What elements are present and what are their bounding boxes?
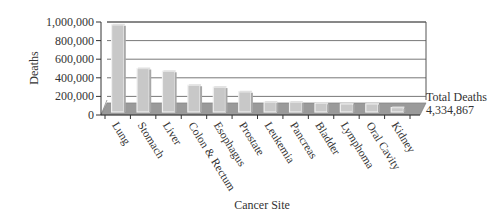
y-tick-label: 600,000 <box>55 52 94 66</box>
bar <box>162 70 176 112</box>
bar <box>366 103 380 112</box>
bar <box>239 91 253 112</box>
y-tick-label: 400,000 <box>55 71 94 85</box>
total-deaths-label: Total Deaths <box>426 90 487 104</box>
bar <box>391 107 405 112</box>
bar-chart: 0200,000400,000600,000800,0001,000,000 L… <box>0 0 504 220</box>
bar <box>290 101 304 112</box>
x-tick-label: Colon & Rectum <box>186 120 238 193</box>
x-axis: LungStomachLiverColon & RectumEsophagusP… <box>101 115 420 193</box>
bar <box>264 101 278 112</box>
x-tick-label: Lung <box>109 120 133 148</box>
y-tick-label: 0 <box>88 108 94 122</box>
bar <box>112 24 126 112</box>
total-deaths-value: 4,334,867 <box>426 103 474 117</box>
y-tick-label: 800,000 <box>55 34 94 48</box>
y-axis: 0200,000400,000600,000800,0001,000,000 <box>46 15 101 122</box>
bars <box>112 24 406 112</box>
x-tick-label: Liver <box>161 120 184 148</box>
y-axis-title: Deaths <box>27 51 41 85</box>
bar <box>137 68 151 113</box>
bar <box>315 102 329 112</box>
x-axis-title: Cancer Site <box>234 198 290 212</box>
bar <box>188 84 202 112</box>
y-tick-label: 200,000 <box>55 89 94 103</box>
bar <box>213 86 227 112</box>
bar <box>340 103 354 112</box>
y-tick-label: 1,000,000 <box>46 15 94 29</box>
